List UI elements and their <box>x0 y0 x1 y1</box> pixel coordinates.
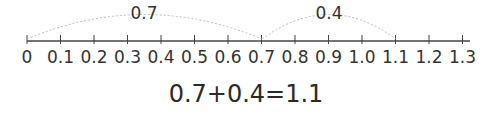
tick-label: 1.0 <box>348 47 375 67</box>
equation: 0.7+0.4=1.1 <box>0 80 492 108</box>
jump-label-2: 0.4 <box>315 3 342 23</box>
tick-label: 1.2 <box>415 47 442 67</box>
tick-label: 0.8 <box>281 47 308 67</box>
tick-label: 1.3 <box>449 47 476 67</box>
tick-label: 0.4 <box>147 47 174 67</box>
tick-label: 1.1 <box>382 47 409 67</box>
tick-label: 0.9 <box>315 47 342 67</box>
ticks <box>27 35 463 44</box>
tick-label: 0.5 <box>181 47 208 67</box>
jump-label-1: 0.7 <box>130 3 157 23</box>
tick-label: 0.6 <box>214 47 241 67</box>
tick-label: 0.2 <box>80 47 107 67</box>
number-line-diagram: 00.10.20.30.40.50.60.70.80.91.01.11.21.3… <box>0 0 492 117</box>
tick-label: 0.7 <box>248 47 275 67</box>
tick-label: 0.1 <box>47 47 74 67</box>
tick-label: 0.3 <box>114 47 141 67</box>
tick-label: 0 <box>22 47 33 67</box>
